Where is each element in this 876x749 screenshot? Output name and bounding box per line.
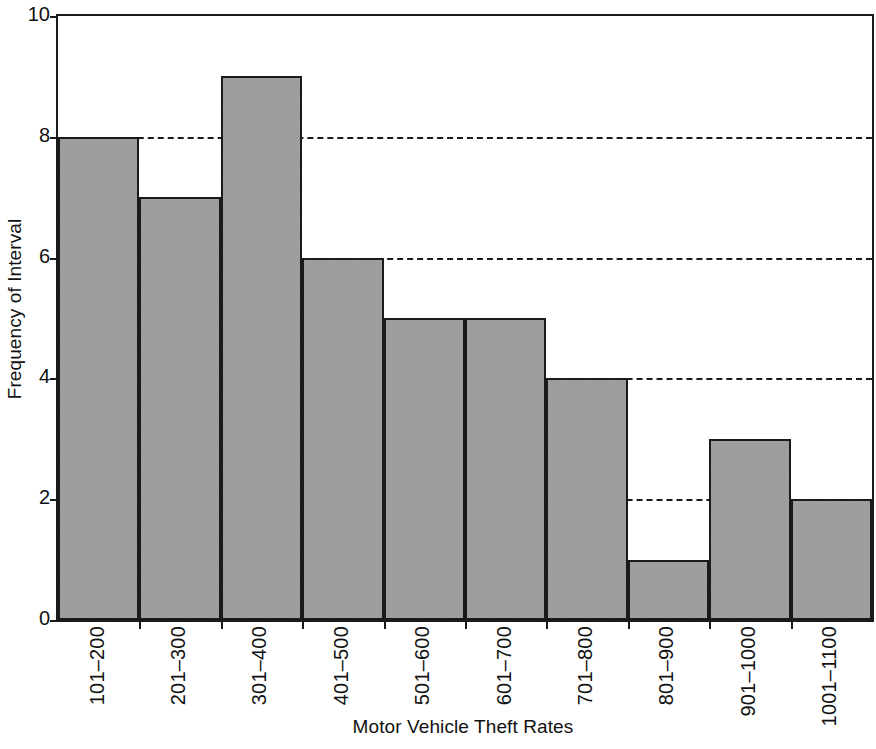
y-tick-mark xyxy=(50,16,58,18)
y-tick-mark xyxy=(50,620,58,622)
x-tick-mark xyxy=(546,621,548,629)
x-tick-mark xyxy=(628,621,630,629)
x-tick-label: 601–700 xyxy=(492,626,515,705)
x-tick-mark xyxy=(465,621,467,629)
y-tick-mark xyxy=(50,137,58,139)
x-tick-slot: 701–800 xyxy=(544,620,625,730)
y-tick-label: 6 xyxy=(16,244,50,267)
y-tick-label: 4 xyxy=(16,365,50,388)
y-tick-mark xyxy=(50,258,58,260)
bar xyxy=(58,137,139,620)
bar xyxy=(709,439,790,620)
plot-area xyxy=(56,14,874,622)
bar xyxy=(465,318,546,620)
x-tick-mark xyxy=(221,621,223,629)
x-tick-label: 301–400 xyxy=(248,626,271,705)
y-tick-label: 10 xyxy=(16,3,50,26)
y-axis-tick-labels: 0246810 xyxy=(0,0,50,749)
x-tick-label: 501–600 xyxy=(411,626,434,705)
x-axis-tick-labels: 101–200201–300301–400401–500501–600601–7… xyxy=(56,620,874,710)
bar xyxy=(221,76,302,620)
y-tick-label: 2 xyxy=(16,486,50,509)
x-tick-mark xyxy=(302,621,304,629)
y-tick-label: 8 xyxy=(16,123,50,146)
bar xyxy=(139,197,220,620)
x-tick-slot: 601–700 xyxy=(463,620,544,730)
x-tick-slot: 501–600 xyxy=(382,620,463,730)
x-tick-mark xyxy=(139,621,141,629)
y-tick-label: 0 xyxy=(16,607,50,630)
bar xyxy=(791,499,872,620)
x-tick-slot: 801–900 xyxy=(626,620,707,730)
histogram-figure: Frequency of Interval 0246810 101–200201… xyxy=(0,0,876,749)
x-tick-slot: 301–400 xyxy=(219,620,300,730)
x-tick-label: 201–300 xyxy=(167,626,190,705)
x-tick-label: 801–900 xyxy=(655,626,678,705)
x-tick-label: 101–200 xyxy=(85,626,108,705)
plot-inner xyxy=(58,16,872,620)
y-tick-mark xyxy=(50,499,58,501)
x-tick-mark xyxy=(384,621,386,629)
x-tick-label: 901–1000 xyxy=(736,626,759,717)
x-tick-label: 701–800 xyxy=(574,626,597,705)
x-tick-mark xyxy=(709,621,711,629)
gridline-y-8 xyxy=(58,137,872,139)
bar xyxy=(384,318,465,620)
y-tick-mark xyxy=(50,378,58,380)
x-tick-slot: 1001–1100 xyxy=(789,620,870,730)
x-tick-label: 1001–1100 xyxy=(818,626,841,726)
x-tick-mark xyxy=(791,621,793,629)
x-tick-slot: 901–1000 xyxy=(707,620,788,730)
bar xyxy=(302,258,383,620)
x-axis-title: Motor Vehicle Theft Rates xyxy=(56,716,870,738)
x-tick-slot: 201–300 xyxy=(137,620,218,730)
x-tick-slot: 101–200 xyxy=(56,620,137,730)
x-tick-label: 401–500 xyxy=(329,626,352,705)
bar xyxy=(628,560,709,620)
x-tick-slot: 401–500 xyxy=(300,620,381,730)
bar xyxy=(546,378,627,620)
